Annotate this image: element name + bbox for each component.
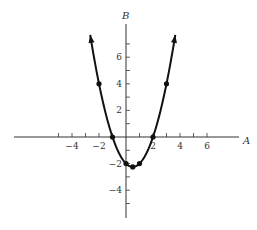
y-tick-label: −4 [109, 185, 123, 195]
data-point [96, 81, 101, 86]
data-point [130, 164, 135, 169]
y-tick-label: 6 [116, 52, 122, 62]
parabola-chart: A B −4−2246642−2−4 [0, 0, 257, 230]
data-point [123, 161, 128, 166]
x-axis-title: A [242, 135, 250, 146]
y-tick-label: −2 [109, 159, 122, 169]
axes: A B [14, 10, 250, 218]
y-tick-label: 4 [116, 79, 122, 89]
x-tick-label: 4 [177, 141, 183, 151]
data-point [110, 134, 115, 139]
data-point [150, 134, 155, 139]
y-tick-label: 2 [116, 105, 122, 115]
data-point [137, 161, 142, 166]
x-tick-label: −2 [92, 141, 105, 151]
data-point [164, 81, 169, 86]
y-axis-title: B [121, 10, 129, 21]
x-tick-label: 6 [204, 141, 210, 151]
x-tick-label: −4 [65, 141, 79, 151]
tick-labels: −4−2246642−2−4 [65, 52, 210, 195]
ticks [59, 44, 208, 204]
